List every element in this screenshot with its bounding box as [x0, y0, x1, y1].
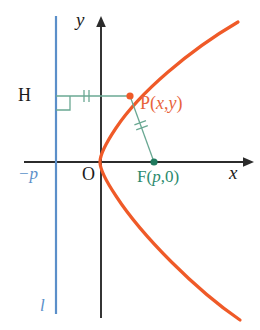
origin-label: O: [82, 165, 95, 183]
point-p-x: x: [156, 93, 164, 113]
y-axis-arrowhead: [96, 16, 106, 27]
point-p-close-paren: ): [177, 93, 183, 113]
directrix-name-label: l: [40, 297, 45, 314]
point-f-p: p: [152, 167, 161, 186]
directrix-intercept-label: −p: [18, 165, 38, 182]
point-f-label: F(p,0): [137, 168, 179, 185]
y-axis-label: y: [76, 10, 84, 29]
x-axis-arrowhead: [243, 157, 254, 167]
point-p-label: P(x,y): [140, 94, 183, 112]
point-p-marker: [126, 92, 133, 99]
point-f-close-paren: ): [173, 167, 179, 186]
point-p-name: P: [140, 93, 150, 113]
figure-canvas: [0, 0, 260, 330]
point-p-y: y: [169, 93, 177, 113]
point-h-label: H: [18, 86, 31, 104]
point-f-marker: [150, 158, 157, 165]
right-angle-marker: [56, 96, 70, 110]
x-axis: [24, 157, 254, 167]
x-axis-label: x: [229, 163, 237, 182]
parabola-figure: y x H O −p l P(x,y) F(p,0): [0, 0, 260, 330]
